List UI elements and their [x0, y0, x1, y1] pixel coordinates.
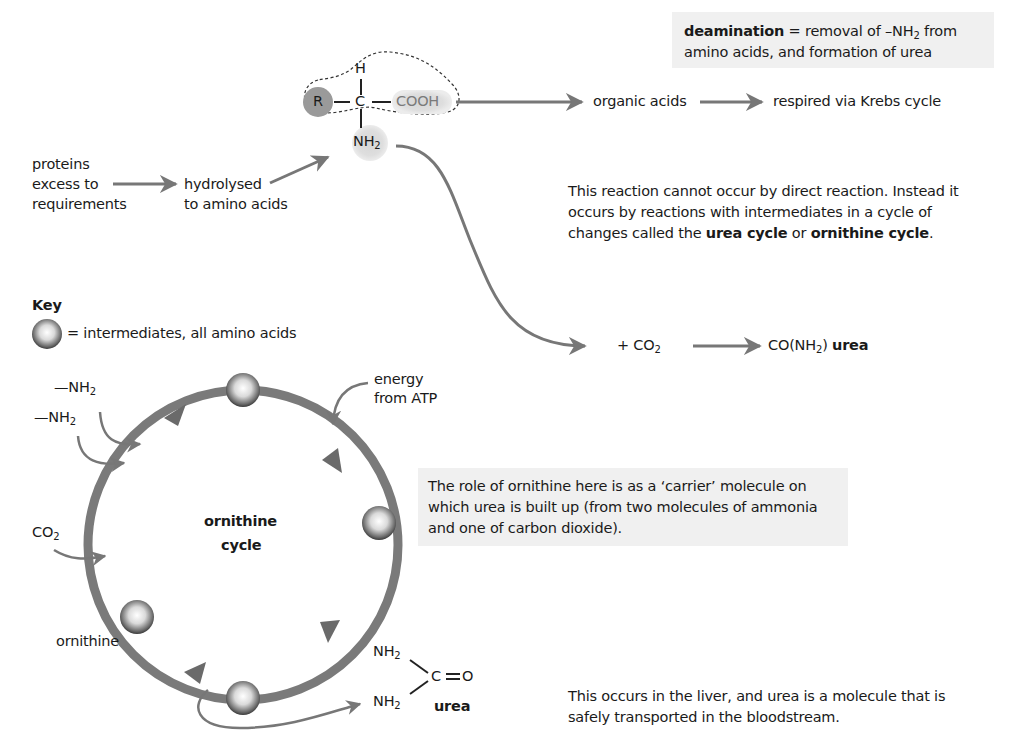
reaction-note-line3: changes called the urea cycle or ornithi…: [568, 224, 933, 243]
urea-carbon: C: [431, 667, 441, 686]
co2-input: CO2: [32, 523, 59, 542]
urea-formula-label: CO(NH2) urea: [768, 336, 868, 355]
intermediate-node-right: [362, 506, 396, 540]
arrow-hydrolysed-to-amino: [270, 157, 328, 183]
ring-arrowhead: [322, 448, 342, 473]
amine-label: NH2: [353, 132, 381, 151]
urea-oxygen: O: [462, 667, 473, 686]
organic-acids-label: organic acids: [593, 92, 687, 111]
key-intermediate-icon: [32, 319, 62, 349]
hydrolysed-label-2: to amino acids: [184, 195, 288, 214]
urea-nh2-bottom: NH2: [373, 692, 401, 711]
deamination-definition-line2: amino acids, and formation of urea: [684, 43, 932, 62]
hydrolysed-label-1: hydrolysed: [184, 175, 262, 194]
intermediate-node-bottom: [226, 681, 260, 715]
deamination-term: deamination: [684, 23, 784, 39]
proteins-label-3: requirements: [32, 195, 127, 214]
reaction-note-line1: This reaction cannot occur by direct rea…: [568, 182, 959, 201]
proteins-label-2: excess to: [32, 175, 98, 194]
deamination-definition: deamination = removal of –NH2 from: [684, 22, 957, 41]
nh2-input-a: —NH2: [54, 378, 96, 397]
respired-label: respired via Krebs cycle: [773, 92, 941, 111]
liver-note-line2: safely transported in the bloodstream.: [568, 708, 840, 727]
cycle-title-1: ornithine: [204, 512, 277, 531]
carrier-note-line3: and one of carbon dioxide).: [428, 519, 622, 538]
carrier-note-line1: The role of ornithine here is as a ‘carr…: [428, 477, 806, 496]
arrow-co2-in: [54, 550, 105, 558]
urea-structure-label: urea: [434, 697, 470, 716]
energy-label-1: energy: [374, 370, 423, 389]
proteins-label-1: proteins: [32, 155, 90, 174]
hydrogen-label: H: [355, 59, 366, 78]
carbon-label: C: [355, 92, 365, 111]
cycle-title-2: cycle: [221, 536, 261, 555]
urea-bond-top: [410, 660, 428, 673]
liver-note-line1: This occurs in the liver, and urea is a …: [568, 687, 945, 706]
energy-label-2: from ATP: [374, 389, 437, 408]
urea-nh2-top: NH2: [373, 642, 401, 661]
ornithine-node: [120, 600, 154, 634]
ring-arrowhead: [320, 620, 340, 643]
key-title: Key: [32, 296, 62, 315]
plus-co2-label: + CO2: [617, 336, 661, 355]
carboxyl-label: COOH: [396, 92, 439, 111]
arrow-nh2-to-co2: [396, 146, 585, 346]
ring-arrowhead: [184, 662, 206, 684]
intermediate-node-top: [226, 373, 260, 407]
reaction-note-line2: occurs by reactions with intermediates i…: [568, 203, 932, 222]
carrier-note-line2: which urea is built up (from two molecul…: [428, 498, 817, 517]
nh2-input-b: —NH2: [34, 408, 76, 427]
urea-bond-bottom: [410, 681, 428, 694]
r-group-label: R: [313, 92, 323, 111]
key-label: = intermediates, all amino acids: [67, 324, 296, 343]
ornithine-label: ornithine: [56, 632, 119, 651]
